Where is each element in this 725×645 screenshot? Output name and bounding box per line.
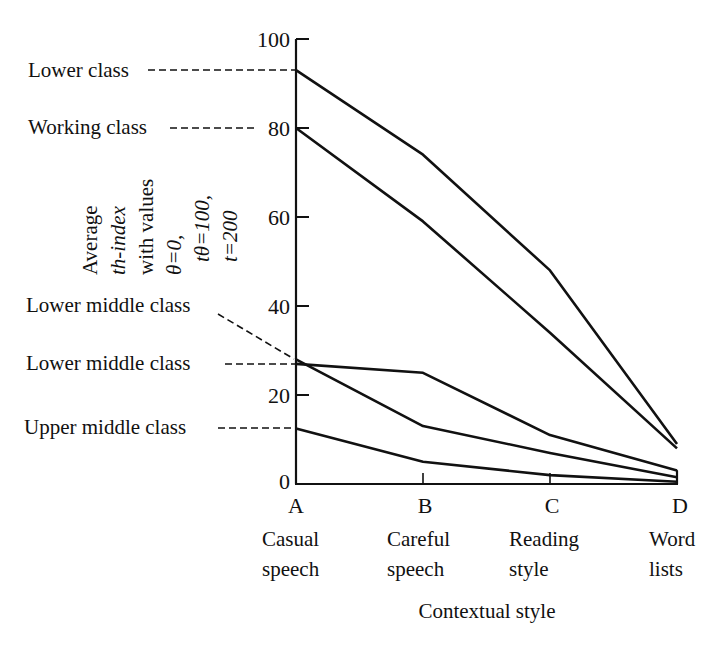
ylabel-line-5: tθ=100,	[190, 195, 214, 262]
series-line-lower-class-0	[296, 70, 677, 444]
y-tick-20: 20	[268, 383, 290, 408]
ylabel-line-4: θ=0,	[162, 235, 186, 275]
category-d-line1: Word	[649, 527, 696, 551]
category-a-line1: Casual	[262, 527, 319, 551]
label-working-class: Working class	[28, 115, 147, 139]
series-line-lower-middle-class-2	[296, 364, 677, 471]
y-tick-0: 0	[279, 469, 290, 494]
category-c-line2: style	[509, 557, 549, 581]
y-axis-title: Average th-index with values θ=0, tθ=100…	[78, 179, 242, 275]
y-tick-80: 80	[268, 116, 290, 141]
series-line-lower-middle-class-3	[296, 359, 677, 477]
category-b-line1: Careful	[387, 527, 450, 551]
label-lower-class: Lower class	[28, 58, 129, 82]
ylabel-line-2: th-index	[106, 206, 130, 275]
y-tick-40: 40	[268, 294, 290, 319]
category-d-letter: D	[672, 493, 688, 518]
line-chart: 100 80 60 40 20 0 Average th-index with …	[0, 0, 725, 645]
label-lower-middle-class-a: Lower middle class	[26, 293, 190, 317]
ylabel-line-1: Average	[78, 205, 102, 275]
series-labels: Lower class Working class Lower middle c…	[24, 58, 295, 439]
category-c-letter: C	[545, 493, 560, 518]
x-axis	[295, 470, 678, 484]
ylabel-line-6: t=200	[218, 210, 242, 262]
leader-lower-middle-class-a	[218, 314, 294, 359]
series-line-working-class-1	[296, 128, 677, 448]
category-a-line2: speech	[262, 557, 320, 581]
series-lines	[296, 70, 677, 484]
x-categories: A Casual speech B Careful speech C Readi…	[262, 493, 696, 581]
y-axis	[296, 39, 309, 484]
y-tick-100: 100	[257, 27, 290, 52]
label-upper-middle-class: Upper middle class	[24, 415, 186, 439]
category-d-line2: lists	[649, 557, 683, 581]
label-lower-middle-class-b: Lower middle class	[26, 351, 190, 375]
category-c-line1: Reading	[509, 527, 579, 551]
ylabel-line-3: with values	[134, 179, 158, 275]
category-b-line2: speech	[387, 557, 445, 581]
y-tick-60: 60	[268, 205, 290, 230]
x-axis-title: Contextual style	[418, 599, 555, 623]
category-b-letter: B	[418, 493, 433, 518]
category-a-letter: A	[288, 493, 304, 518]
